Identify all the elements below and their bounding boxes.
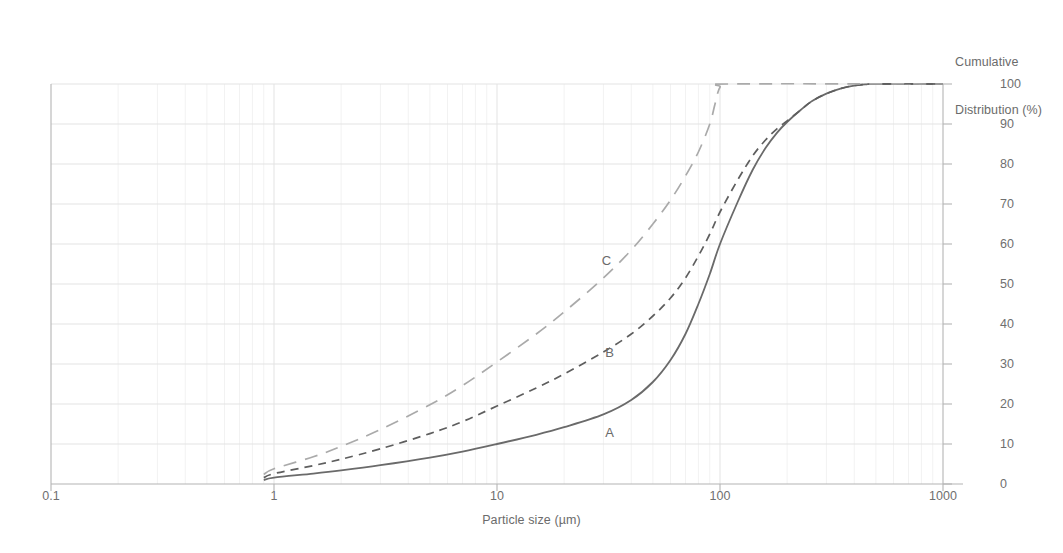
y-tick-label-80: 80 bbox=[1000, 157, 1014, 171]
x-tick-label-1: 1 bbox=[271, 489, 278, 503]
series-label-b: B bbox=[605, 345, 614, 360]
y-tick-label-100: 100 bbox=[1000, 77, 1021, 91]
y-tick-label-40: 40 bbox=[1000, 317, 1014, 331]
y-tick-label-90: 90 bbox=[1000, 117, 1014, 131]
particle-size-distribution-chart: Cumulative Distribution (%) Particle siz… bbox=[0, 0, 1063, 553]
y-tick-label-20: 20 bbox=[1000, 397, 1014, 411]
y-tick-label-60: 60 bbox=[1000, 237, 1014, 251]
series-label-a: A bbox=[605, 425, 614, 440]
x-tick-label-1000: 1000 bbox=[929, 489, 957, 503]
x-axis-title: Particle size (µm) bbox=[0, 512, 1063, 528]
series-label-c: C bbox=[602, 253, 611, 268]
x-tick-label-10: 10 bbox=[490, 489, 504, 503]
y-tick-label-50: 50 bbox=[1000, 277, 1014, 291]
y-axis-title-line1: Cumulative bbox=[955, 54, 1042, 70]
y-tick-label-10: 10 bbox=[1000, 437, 1014, 451]
x-tick-label-0-1: 0.1 bbox=[42, 489, 59, 503]
chart-plot-svg bbox=[0, 0, 1063, 553]
y-tick-label-70: 70 bbox=[1000, 197, 1014, 211]
y-tick-label-0: 0 bbox=[1000, 477, 1007, 491]
y-axis-title: Cumulative Distribution (%) bbox=[955, 22, 1042, 150]
x-tick-label-100: 100 bbox=[710, 489, 731, 503]
y-tick-label-30: 30 bbox=[1000, 357, 1014, 371]
axis-ticks bbox=[51, 84, 952, 491]
y-axis-title-line2: Distribution (%) bbox=[955, 102, 1042, 118]
